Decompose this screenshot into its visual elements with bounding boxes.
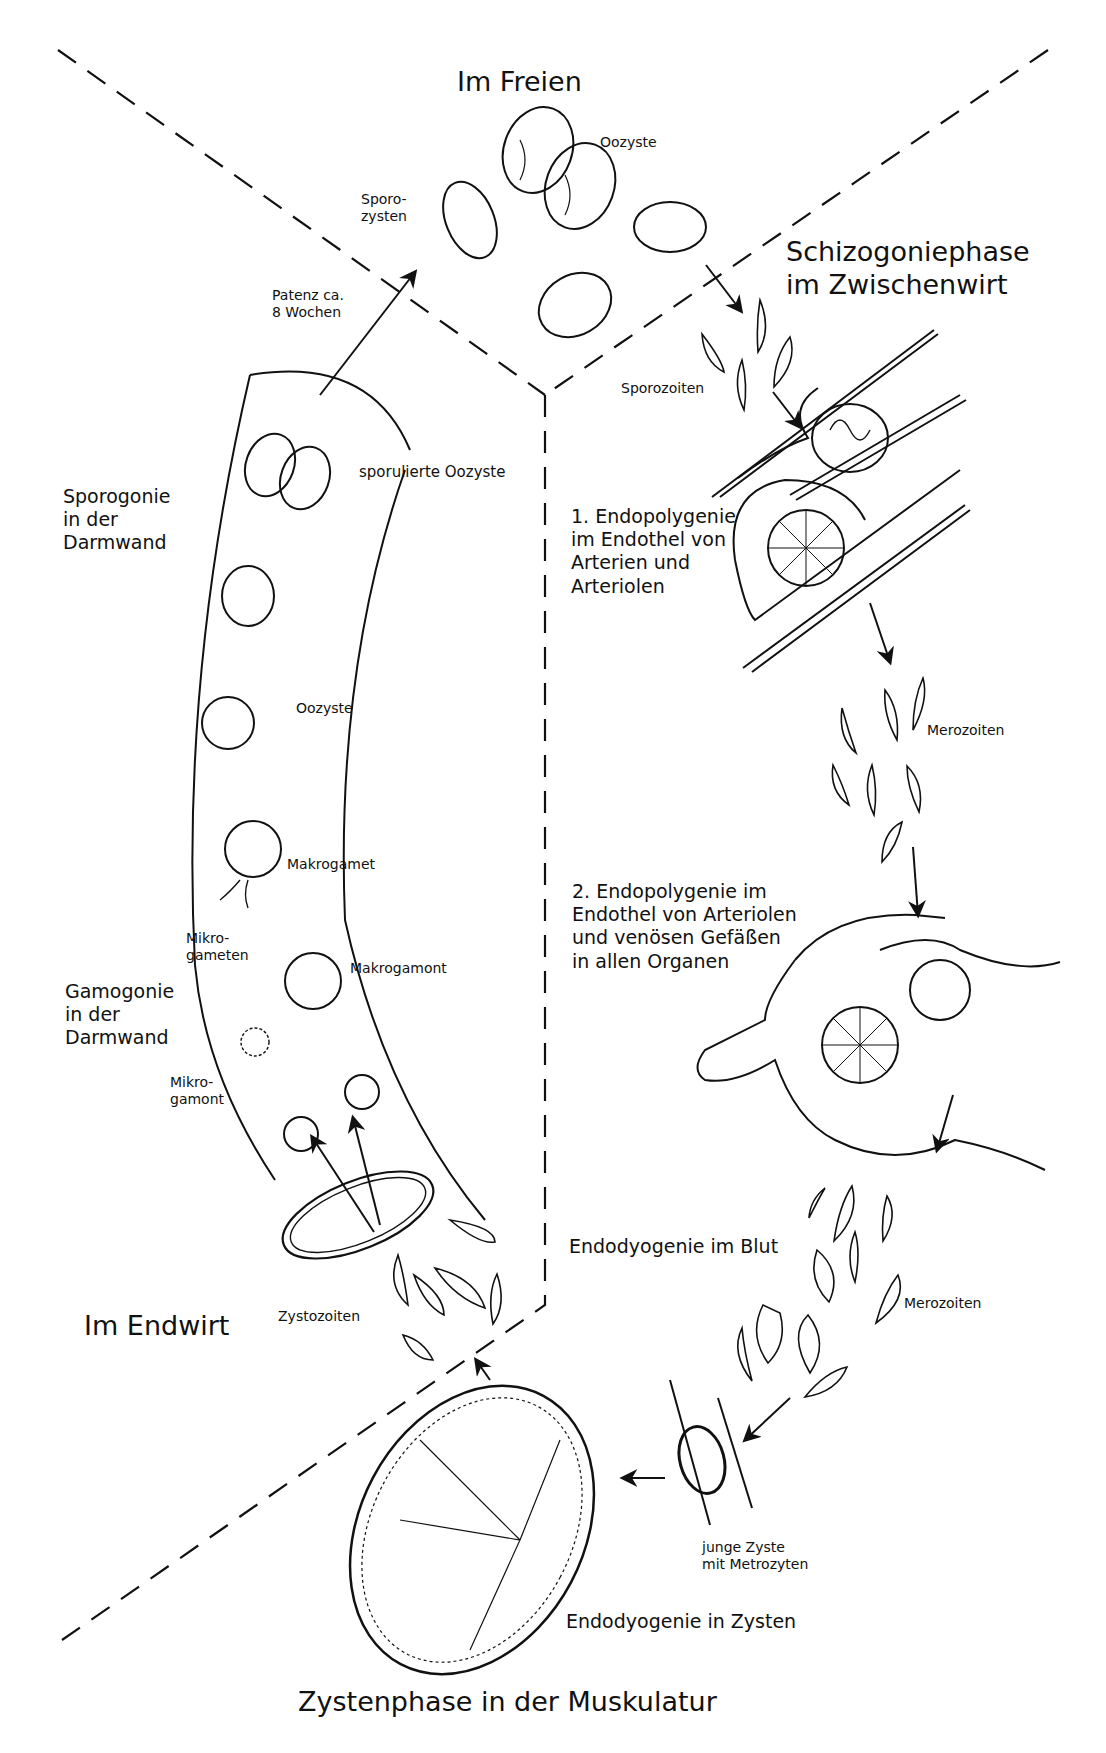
label-sporozysten: Sporo- zysten [361, 191, 407, 225]
label-mikrogamont: Mikro- gamont [170, 1074, 224, 1108]
sporozoites-icon [702, 300, 792, 410]
gut-stages [202, 427, 379, 1151]
label-zystozoiten: Zystozoiten [278, 1308, 360, 1325]
merozoites-1-icon [832, 678, 924, 862]
label-endodyogenie-zysten: Endodyogenie in Zysten [566, 1610, 796, 1633]
label-mikrogameten: Mikro- gameten [186, 930, 249, 964]
region-label-schizogoniephase: Schizogoniephase im Zwischenwirt [786, 236, 1030, 302]
young-cyst-icon [670, 1380, 752, 1525]
label-merozoiten-2: Merozoiten [904, 1295, 982, 1312]
label-oozyste-top: Oozyste [600, 134, 657, 151]
label-makrogamet: Makrogamet [287, 856, 375, 873]
label-endodyogenie-blut: Endodyogenie im Blut [569, 1235, 778, 1258]
label-oozyste-gut: Oozyste [296, 700, 353, 717]
label-endopolygenie-2: 2. Endopolygenie im Endothel von Arterio… [572, 880, 797, 973]
label-endopolygenie-1: 1. Endopolygenie im Endothel von Arterie… [571, 505, 736, 598]
vessel-endothelium-1 [712, 330, 970, 672]
oocyst-top-icon [491, 97, 627, 239]
label-merozoiten-1: Merozoiten [927, 722, 1005, 739]
mature-cyst-icon [302, 1343, 642, 1717]
zystozoites-icon [394, 1220, 501, 1360]
label-gamogonie: Gamogonie in der Darmwand [65, 980, 174, 1050]
label-sporozoiten: Sporozoiten [621, 380, 704, 397]
merozoites-2-icon [738, 1186, 901, 1397]
label-patenz: Patenz ca. 8 Wochen [272, 287, 344, 321]
label-sporulierte-oozyste: sporulierte Oozyste [359, 463, 505, 481]
region-label-zystenphase: Zystenphase in der Muskulatur [298, 1686, 717, 1719]
gut-tube [192, 372, 485, 1277]
arrow-to-sporozoites [706, 265, 741, 311]
label-makrogamont: Makrogamont [350, 960, 447, 977]
label-sporogonie: Sporogonie in der Darmwand [63, 485, 170, 555]
label-junge-zyste: junge Zyste mit Metrozyten [702, 1539, 808, 1573]
region-label-im-freien: Im Freien [457, 66, 582, 99]
region-label-im-endwirt: Im Endwirt [84, 1310, 229, 1343]
